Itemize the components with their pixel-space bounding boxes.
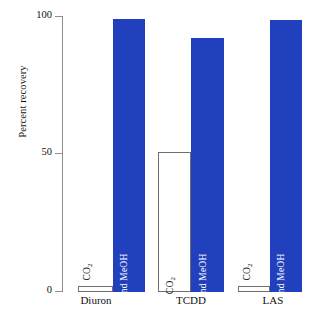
y-tick-label-0: 0 <box>12 285 52 296</box>
x-category-label-diuron: Diuron <box>60 294 132 307</box>
bar-label-tcdd-co2: CO2 <box>165 276 175 293</box>
bar-label-las-co2-meoh: CO2 and MeOH <box>277 253 287 317</box>
y-axis-title: Percent recovery <box>17 42 28 162</box>
bar-las-co2[interactable] <box>238 286 270 292</box>
y-tick-label-100: 100 <box>12 10 52 21</box>
bar-label-tcdd-co2-meoh: CO2 and MeOH <box>198 253 208 317</box>
y-tick-label-100-wrap: 100 <box>8 10 52 21</box>
y-tick-label-0-wrap: 0 <box>8 285 52 296</box>
bar-las-co2-meoh[interactable]: CO2 and MeOH <box>270 20 302 292</box>
plot-area: CO2 CO2 and MeOH CO2 CO2 and MeOH CO2 CO… <box>62 16 318 292</box>
bar-label-las-co2: CO2 <box>243 263 253 280</box>
bar-diuron-co2-meoh[interactable]: CO2 and MeOH <box>113 19 145 292</box>
bar-label-diuron-co2: CO2 <box>83 263 93 280</box>
bar-label-diuron-co2-meoh: CO2 and MeOH <box>120 253 130 317</box>
bar-tcdd-co2-meoh[interactable]: CO2 and MeOH <box>191 38 224 292</box>
x-category-label-las: LAS <box>237 294 309 307</box>
x-category-label-tcdd: TCDD <box>155 294 227 307</box>
bar-tcdd-co2[interactable]: CO2 <box>158 152 191 292</box>
y-tick-label-50: 50 <box>12 147 52 158</box>
y-tick-label-50-wrap: 50 <box>8 147 52 158</box>
bar-diuron-co2[interactable] <box>78 286 113 292</box>
chart-figure: Percent recovery 100 50 0 CO2 CO2 and Me… <box>0 0 327 319</box>
